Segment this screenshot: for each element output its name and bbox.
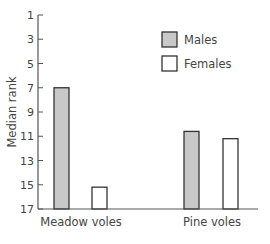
- legend-label-males: Males: [184, 33, 217, 47]
- legend: MalesFemales: [162, 32, 232, 71]
- legend-swatch-males: [162, 32, 177, 47]
- y-tick-label: 7: [27, 82, 34, 95]
- bar-pine-voles-males: [184, 131, 199, 209]
- y-tick-label: 3: [27, 33, 34, 46]
- bar-chart: 1357911131517 Meadow volesPine voles Mal…: [0, 0, 270, 244]
- bar-pine-voles-females: [223, 139, 238, 209]
- x-axis: Meadow volesPine voles: [38, 209, 258, 229]
- y-tick-label: 11: [20, 130, 34, 143]
- x-category-label: Meadow voles: [40, 215, 122, 229]
- y-tick-label: 17: [20, 203, 34, 216]
- bar-meadow-voles-males: [54, 88, 69, 209]
- y-axis-label: Median rank: [5, 76, 19, 148]
- y-tick-label: 9: [27, 106, 34, 119]
- x-category-label: Pine voles: [183, 215, 241, 229]
- y-tick-label: 13: [20, 155, 34, 168]
- bar-meadow-voles-females: [92, 187, 107, 209]
- y-tick-label: 1: [27, 9, 34, 22]
- y-tick-label: 15: [20, 179, 34, 192]
- y-axis: 1357911131517: [20, 9, 43, 216]
- legend-label-females: Females: [184, 57, 232, 71]
- bars: [54, 88, 238, 209]
- y-tick-label: 5: [27, 58, 34, 71]
- legend-swatch-females: [162, 56, 177, 71]
